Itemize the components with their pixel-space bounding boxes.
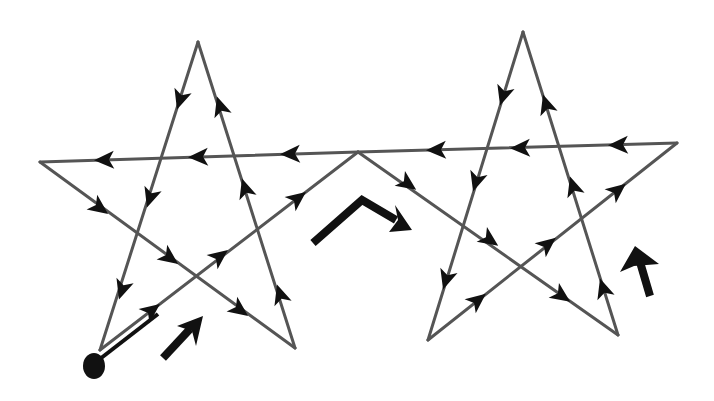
right-star-direction-arrow xyxy=(620,246,659,296)
arrowhead-icon xyxy=(534,92,557,116)
left-star xyxy=(40,42,358,350)
arrowhead-icon xyxy=(464,170,487,194)
arrowhead-icon xyxy=(477,227,504,253)
arrowhead-icon xyxy=(168,88,191,113)
arrowhead-icon xyxy=(285,185,312,211)
arrowhead-icon xyxy=(434,268,457,292)
left-star-direction-arrow xyxy=(163,316,203,358)
left-star-edge-bottomright-to-top xyxy=(198,42,295,348)
arrowhead-icon xyxy=(491,84,514,108)
start-dot xyxy=(83,353,105,379)
arrowhead-icon xyxy=(549,283,576,309)
bridge-direction-arrow xyxy=(313,200,412,243)
arrowhead-icon xyxy=(591,276,614,300)
left-star-edge-start-to-join xyxy=(100,152,358,350)
diagram-canvas: Continuous path tracing two five-pointed… xyxy=(0,0,714,401)
double-star-path-diagram xyxy=(0,0,714,401)
arrowhead-icon xyxy=(233,176,256,201)
